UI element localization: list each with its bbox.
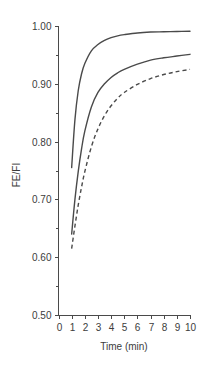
curve-middle-curve bbox=[72, 54, 190, 234]
x-tick-label-5: 5 bbox=[122, 322, 128, 333]
x-axis-title: Time (min) bbox=[100, 341, 147, 352]
x-tick-label-9: 9 bbox=[175, 322, 181, 333]
x-axis-tick-labels: 012345678910 bbox=[57, 322, 197, 333]
y-axis-tick-labels: 0.500.600.700.800.901.00 bbox=[32, 21, 52, 321]
x-tick-label-1: 1 bbox=[70, 322, 76, 333]
y-tick-label-0.60: 0.60 bbox=[32, 252, 52, 263]
y-tick-label-0.80: 0.80 bbox=[32, 137, 52, 148]
curve-upper-curve bbox=[72, 31, 190, 167]
y-tick-label-0.90: 0.90 bbox=[32, 79, 52, 90]
x-tick-label-0: 0 bbox=[57, 322, 63, 333]
x-tick-label-2: 2 bbox=[83, 322, 89, 333]
x-tick-label-3: 3 bbox=[96, 322, 102, 333]
data-curves bbox=[72, 31, 190, 248]
y-axis-title: FE/FI bbox=[11, 163, 22, 187]
chart-figure: 0.500.600.700.800.901.00 012345678910 FE… bbox=[0, 0, 208, 366]
y-tick-label-0.70: 0.70 bbox=[32, 194, 52, 205]
curve-lower-curve bbox=[72, 69, 190, 248]
y-tick-label-0.50: 0.50 bbox=[32, 310, 52, 321]
y-tick-label-1.00: 1.00 bbox=[32, 21, 52, 32]
x-tick-label-4: 4 bbox=[109, 322, 115, 333]
line-chart: 0.500.600.700.800.901.00 012345678910 FE… bbox=[0, 0, 208, 366]
x-tick-label-6: 6 bbox=[135, 322, 141, 333]
x-tick-label-10: 10 bbox=[185, 322, 197, 333]
x-tick-label-8: 8 bbox=[162, 322, 168, 333]
x-tick-label-7: 7 bbox=[149, 322, 155, 333]
